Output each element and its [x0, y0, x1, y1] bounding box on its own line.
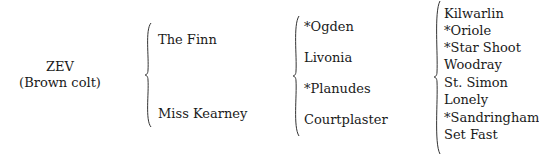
- grandparents-brace: [291, 15, 301, 137]
- subject-horse: ZEV (Brown colt): [14, 59, 106, 91]
- great-grandparent-8: Set Fast: [444, 127, 498, 143]
- great-grandparent-3: *Star Shoot: [444, 40, 521, 56]
- great-grandparent-1: Kilwarlin: [444, 6, 504, 22]
- grandparent-3: *Planudes: [304, 81, 371, 97]
- grandparent-1: *Ogden: [304, 19, 354, 35]
- great-grandparent-5: St. Simon: [444, 75, 508, 91]
- great-grandparent-7: *Sandringham: [444, 110, 539, 126]
- subject-name: ZEV: [14, 59, 106, 75]
- grandparent-4: Courtplaster: [304, 112, 388, 128]
- subject-description: (Brown colt): [14, 75, 106, 91]
- great-grandparents-brace: [432, 0, 442, 156]
- parent-sire: The Finn: [158, 32, 217, 48]
- great-grandparent-6: Lonely: [444, 92, 488, 108]
- parents-brace: [143, 22, 153, 128]
- grandparent-2: Livonia: [304, 50, 352, 66]
- great-grandparent-4: Woodray: [444, 57, 502, 73]
- great-grandparent-2: *Oriole: [444, 23, 491, 39]
- parent-dam: Miss Kearney: [158, 106, 247, 122]
